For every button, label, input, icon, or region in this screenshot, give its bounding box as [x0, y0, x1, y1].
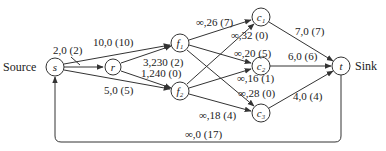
- label-s-f1: 10,0 (10): [93, 36, 134, 49]
- label-r-f2: 1,240 (0): [141, 67, 182, 80]
- label-t-s: ∞,0 (17): [185, 128, 223, 141]
- label-f2-c3: ∞,18 (4): [199, 109, 237, 122]
- label-s-r: 2,0 (2): [53, 44, 83, 57]
- svg-text:f₁: f₁: [177, 37, 184, 49]
- svg-text:s: s: [53, 61, 57, 73]
- svg-text:c₁: c₁: [257, 11, 266, 23]
- label-f2-c2: ∞,16 (1): [237, 72, 275, 85]
- label-c3-t: 4,0 (4): [293, 90, 323, 103]
- label-f1-c1: ∞,26 (7): [196, 16, 234, 29]
- network-flow-diagram: s r f₁ f₂ c₁ c₂ c₃ t Sour: [0, 0, 386, 151]
- svg-text:f₂: f₂: [177, 85, 184, 97]
- node-f2: f₂: [171, 82, 189, 100]
- node-r: r: [105, 59, 121, 75]
- edge-labels: 2,0 (2) 10,0 (10) 5,0 (5) 3,230 (2) 1,24…: [53, 16, 325, 141]
- label-c2-t: 6,0 (6): [288, 50, 318, 63]
- label-f1-c2: ∞,20 (5): [234, 47, 272, 60]
- svg-text:c₃: c₃: [257, 107, 266, 119]
- node-s: s: [46, 58, 64, 76]
- label-f1-c3: ∞,28 (0): [238, 87, 276, 100]
- label-f2-c1: ∞,32 (0): [231, 29, 269, 42]
- svg-text:c₂: c₂: [257, 60, 266, 72]
- node-c3: c₃: [252, 104, 270, 122]
- source-label: Source: [3, 60, 36, 74]
- label-c1-t: 7,0 (7): [295, 25, 325, 38]
- node-f1: f₁: [171, 34, 189, 52]
- node-c1: c₁: [252, 8, 270, 26]
- node-t: t: [332, 57, 350, 75]
- sink-label: Sink: [355, 59, 377, 73]
- label-s-f2: 5,0 (5): [104, 84, 134, 97]
- svg-text:r: r: [111, 61, 116, 73]
